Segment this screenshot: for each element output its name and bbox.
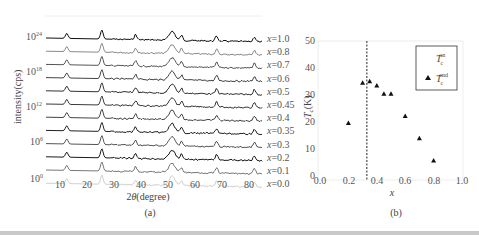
- triangle-marker-icon: [389, 91, 394, 96]
- x-tick-0.6: 0.6: [399, 175, 412, 186]
- series-labels: x=1.0x=0.8x=0.7x=0.6x=0.5x=0.45x=0.4x=0.…: [266, 33, 295, 189]
- xrd-traces: [46, 30, 262, 188]
- series-label: x=0.2: [266, 152, 290, 163]
- series-label: x=0.5: [266, 86, 290, 97]
- legend: Tcon Tcend: [416, 46, 457, 90]
- triangle-marker-icon: [360, 80, 365, 85]
- xrd-trace: [46, 96, 262, 109]
- xrd-trace: [46, 30, 262, 42]
- x-tick-50: 50: [163, 179, 173, 190]
- figure: 1024 1018 1012 106 100 intensity(cps) x=…: [0, 0, 479, 235]
- x-tick-10: 10: [55, 179, 65, 190]
- y-tick-50: 50: [305, 35, 315, 46]
- series-label: x=0.1: [266, 165, 290, 176]
- panel-a-y-label: intensity(cps): [12, 70, 24, 124]
- x-tick-40: 40: [136, 179, 146, 190]
- panel-b: 50 40 30 20 10 0 Tc(K) 0.0 0.2 0.4 0.6 0…: [302, 35, 468, 219]
- series-label: x=0.8: [266, 46, 290, 57]
- series-label: x=0.35: [266, 125, 295, 136]
- xrd-trace: [46, 109, 262, 121]
- y-tick-1e18: 1018: [26, 66, 42, 77]
- series-label: x=0.6: [266, 73, 290, 84]
- xrd-trace: [46, 43, 262, 55]
- x-tick-0.0: 0.0: [314, 175, 327, 186]
- xrd-trace: [46, 56, 262, 68]
- triangle-marker-icon: [403, 114, 408, 119]
- series-label: x=0.0: [266, 178, 290, 189]
- series-label: x=0.4: [266, 112, 290, 123]
- series-label: x=0.3: [266, 139, 290, 150]
- xrd-trace: [46, 136, 262, 148]
- panel-b-caption: (b): [390, 207, 402, 219]
- x-tick-20: 20: [82, 179, 92, 190]
- series-label: x=0.7: [266, 59, 290, 70]
- xrd-trace: [46, 83, 262, 95]
- x-tick-0.4: 0.4: [371, 175, 384, 186]
- x-tick-60: 60: [190, 179, 200, 190]
- y-tick-1e12: 1012: [26, 101, 42, 112]
- series-label: x=0.45: [266, 99, 295, 110]
- bottom-divider: [0, 231, 479, 235]
- y-tick-40: 40: [305, 62, 315, 73]
- triangle-marker-icon: [381, 91, 386, 96]
- xrd-trace: [46, 175, 262, 187]
- y-tick-1e6: 106: [30, 136, 43, 147]
- panel-b-x-label: x: [389, 187, 395, 198]
- x-tick-0.8: 0.8: [428, 175, 441, 186]
- tc-end-markers: [346, 79, 436, 163]
- triangle-marker-icon: [374, 83, 379, 88]
- triangle-marker-icon: [367, 79, 372, 84]
- xrd-trace: [46, 149, 262, 161]
- x-tick-1.0: 1.0: [456, 175, 469, 186]
- y-tick-10: 10: [305, 143, 315, 154]
- panel-a-x-label: 2θ(degree): [126, 191, 169, 203]
- triangle-marker-icon: [417, 136, 422, 141]
- panel-a-caption: (a): [144, 207, 155, 219]
- y-tick-1e0: 100: [30, 173, 43, 184]
- triangle-marker-icon: [431, 158, 436, 163]
- panel-a-y-ticks: 1024 1018 1012 106 100: [26, 31, 43, 184]
- x-tick-80: 80: [244, 179, 254, 190]
- triangle-marker-icon: [346, 121, 351, 126]
- panel-a: 1024 1018 1012 106 100 intensity(cps) x=…: [12, 16, 295, 219]
- xrd-trace: [46, 122, 262, 134]
- x-tick-0.2: 0.2: [343, 175, 356, 186]
- xrd-trace: [46, 162, 262, 174]
- x-tick-30: 30: [109, 179, 119, 190]
- series-label: x=1.0: [266, 33, 290, 44]
- y-tick-1e24: 1024: [26, 31, 42, 42]
- x-tick-70: 70: [217, 179, 227, 190]
- xrd-trace: [46, 70, 262, 82]
